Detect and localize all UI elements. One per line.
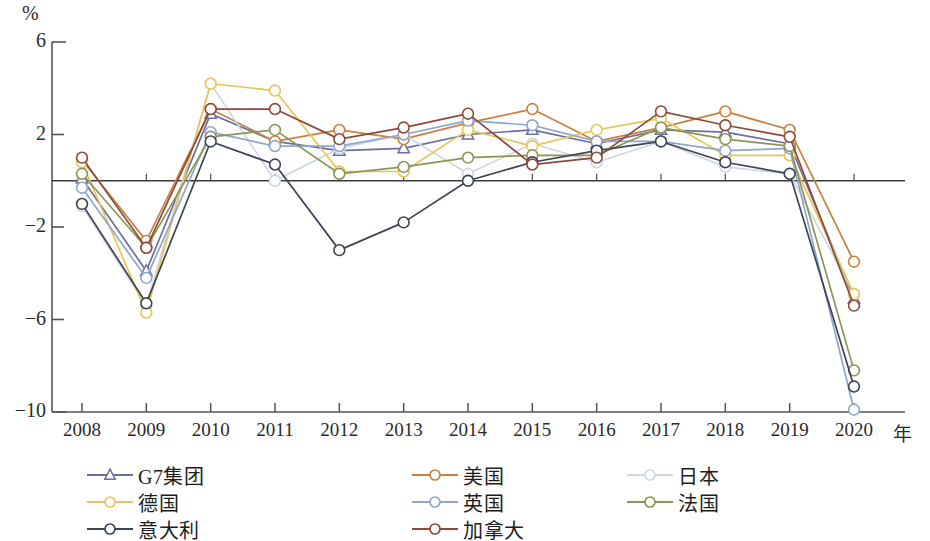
data-point-marker bbox=[205, 136, 216, 147]
x-tick-label: 2020 bbox=[823, 419, 885, 441]
data-point-marker bbox=[334, 245, 345, 256]
legend-item-1[interactable]: 美国 bbox=[411, 462, 504, 488]
legend-circle-marker-icon bbox=[626, 466, 674, 484]
data-point-marker bbox=[205, 104, 216, 115]
y-tick-label: −6 bbox=[0, 307, 46, 330]
x-tick-label: 2018 bbox=[694, 419, 756, 441]
data-point-marker bbox=[270, 175, 281, 186]
chart-legend: G7集团美国日本德国英国法国意大利加拿大 bbox=[86, 462, 846, 540]
x-axis-unit-label: 年 bbox=[893, 419, 912, 446]
data-point-marker bbox=[334, 134, 345, 145]
data-point-marker bbox=[527, 120, 538, 131]
data-point-marker bbox=[77, 198, 88, 209]
data-point-marker bbox=[77, 168, 88, 179]
data-point-marker bbox=[720, 157, 731, 168]
data-point-marker bbox=[849, 404, 860, 415]
legend-circle-marker-icon bbox=[86, 520, 134, 538]
data-point-marker bbox=[656, 106, 667, 117]
x-tick-label: 2016 bbox=[566, 419, 628, 441]
legend-triangle-marker-icon bbox=[86, 466, 134, 484]
data-point-marker bbox=[270, 104, 281, 115]
data-point-marker bbox=[463, 152, 474, 163]
x-tick-label: 2011 bbox=[244, 419, 306, 441]
data-point-marker bbox=[398, 217, 409, 228]
legend-label: 加拿大 bbox=[463, 515, 525, 541]
y-tick-label: 2 bbox=[0, 122, 46, 145]
legend-item-0[interactable]: G7集团 bbox=[86, 462, 204, 488]
data-point-marker bbox=[591, 152, 602, 163]
data-point-marker bbox=[270, 159, 281, 170]
legend-label: 德国 bbox=[138, 488, 179, 517]
legend-item-3[interactable]: 德国 bbox=[86, 489, 179, 515]
x-tick-label: 2012 bbox=[308, 419, 370, 441]
data-point-marker bbox=[141, 242, 152, 253]
data-point-marker bbox=[720, 106, 731, 117]
x-tick-label: 2008 bbox=[51, 419, 113, 441]
legend-circle-marker-icon bbox=[86, 493, 134, 511]
data-point-marker bbox=[205, 78, 216, 89]
x-tick-label: 2017 bbox=[630, 419, 692, 441]
data-point-marker bbox=[270, 124, 281, 135]
data-point-marker bbox=[270, 85, 281, 96]
data-point-marker bbox=[720, 145, 731, 156]
data-point-marker bbox=[463, 108, 474, 119]
legend-label: 英国 bbox=[463, 488, 504, 517]
data-point-marker bbox=[591, 124, 602, 135]
x-tick-label: 2019 bbox=[759, 419, 821, 441]
data-point-marker bbox=[398, 122, 409, 133]
x-tick-label: 2009 bbox=[115, 419, 177, 441]
data-point-marker bbox=[270, 141, 281, 152]
data-point-marker bbox=[656, 136, 667, 147]
data-point-marker bbox=[849, 256, 860, 267]
x-tick-label: 2014 bbox=[437, 419, 499, 441]
y-tick-label: −10 bbox=[0, 399, 46, 422]
y-tick-label: 6 bbox=[0, 29, 46, 52]
data-point-marker bbox=[720, 120, 731, 131]
x-tick-label: 2013 bbox=[373, 419, 435, 441]
data-point-marker bbox=[849, 381, 860, 392]
legend-circle-marker-icon bbox=[411, 493, 459, 511]
data-point-marker bbox=[784, 131, 795, 142]
x-tick-label: 2015 bbox=[501, 419, 563, 441]
data-point-marker bbox=[334, 168, 345, 179]
legend-item-5[interactable]: 法国 bbox=[626, 489, 719, 515]
data-point-marker bbox=[656, 122, 667, 133]
data-point-marker bbox=[849, 300, 860, 311]
data-point-marker bbox=[527, 159, 538, 170]
legend-label: 日本 bbox=[678, 461, 719, 490]
legend-circle-marker-icon bbox=[626, 493, 674, 511]
data-point-marker bbox=[398, 161, 409, 172]
series-0 bbox=[76, 107, 859, 303]
legend-item-2[interactable]: 日本 bbox=[626, 462, 719, 488]
data-point-marker bbox=[720, 134, 731, 145]
data-point-marker bbox=[141, 298, 152, 309]
legend-label: 法国 bbox=[678, 488, 719, 517]
data-point-marker bbox=[784, 168, 795, 179]
legend-item-6[interactable]: 意大利 bbox=[86, 516, 200, 541]
legend-label: 美国 bbox=[463, 461, 504, 490]
data-point-marker bbox=[463, 175, 474, 186]
legend-label: 意大利 bbox=[138, 515, 200, 541]
data-point-marker bbox=[77, 152, 88, 163]
y-axis-unit-label: % bbox=[22, 2, 39, 25]
y-tick-label: −2 bbox=[0, 214, 46, 237]
legend-circle-marker-icon bbox=[411, 520, 459, 538]
series-5 bbox=[77, 122, 860, 376]
data-point-marker bbox=[77, 182, 88, 193]
legend-label: G7集团 bbox=[138, 461, 204, 490]
legend-circle-marker-icon bbox=[411, 466, 459, 484]
chart-container: % 62−2−6−10 2008200920102011201220132014… bbox=[0, 0, 930, 541]
series-line bbox=[82, 114, 854, 299]
legend-item-7[interactable]: 加拿大 bbox=[411, 516, 525, 541]
x-tick-label: 2010 bbox=[180, 419, 242, 441]
legend-item-4[interactable]: 英国 bbox=[411, 489, 504, 515]
data-point-marker bbox=[527, 104, 538, 115]
data-point-marker bbox=[141, 272, 152, 283]
